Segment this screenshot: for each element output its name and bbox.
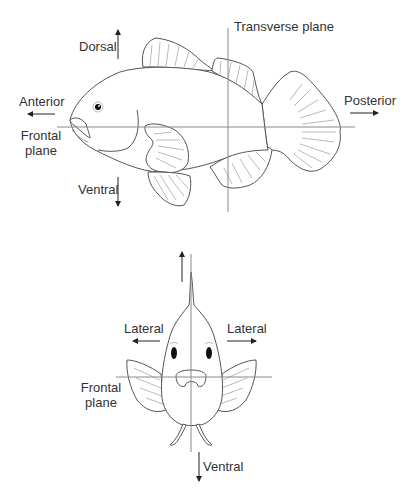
- label-frontal-plane-side-line1: Frontal: [18, 128, 64, 143]
- pectoral-fin-left: [127, 360, 166, 412]
- pelvic-fin-left-front: [170, 424, 186, 445]
- fish-anatomical-planes-diagram: [0, 0, 410, 497]
- label-frontal-plane-side: Frontal plane: [18, 128, 64, 158]
- label-frontal-plane-front-line2: plane: [78, 395, 124, 410]
- fish-body-front: [161, 272, 222, 426]
- label-ventral-side: Ventral: [78, 182, 118, 197]
- label-transverse-plane: Transverse plane: [234, 19, 334, 34]
- dorsal-fin-front: [142, 38, 214, 70]
- label-frontal-plane-front-line1: Frontal: [78, 380, 124, 395]
- label-dorsal: Dorsal: [79, 39, 117, 54]
- label-lateral-right: Lateral: [227, 321, 267, 336]
- caudal-fin: [262, 71, 340, 171]
- label-frontal-plane-front: Frontal plane: [78, 380, 124, 410]
- label-posterior: Posterior: [344, 93, 396, 108]
- eye-side: [93, 102, 103, 112]
- side-view-fish: [70, 38, 340, 206]
- label-anterior: Anterior: [19, 94, 65, 109]
- label-lateral-left: Lateral: [124, 321, 164, 336]
- label-frontal-plane-side-line2: plane: [18, 143, 64, 158]
- pelvic-fin: [148, 172, 191, 206]
- label-ventral-front: Ventral: [203, 459, 243, 474]
- pelvic-fin-right-front: [196, 424, 212, 445]
